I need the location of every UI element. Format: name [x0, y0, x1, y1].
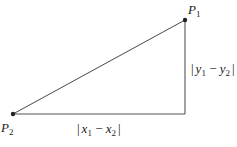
hypotenuse [13, 20, 185, 114]
label-p2: P2 [0, 120, 13, 137]
label-horizontal-distance: |x1 − x2| [77, 121, 121, 138]
point-p1 [183, 18, 187, 22]
distance-diagram: P1 P2 |x1 − x2| |y1 − y2| [0, 0, 237, 147]
label-p1: P1 [187, 2, 200, 19]
label-vertical-distance: |y1 − y2| [191, 61, 235, 78]
point-p2 [11, 112, 15, 116]
